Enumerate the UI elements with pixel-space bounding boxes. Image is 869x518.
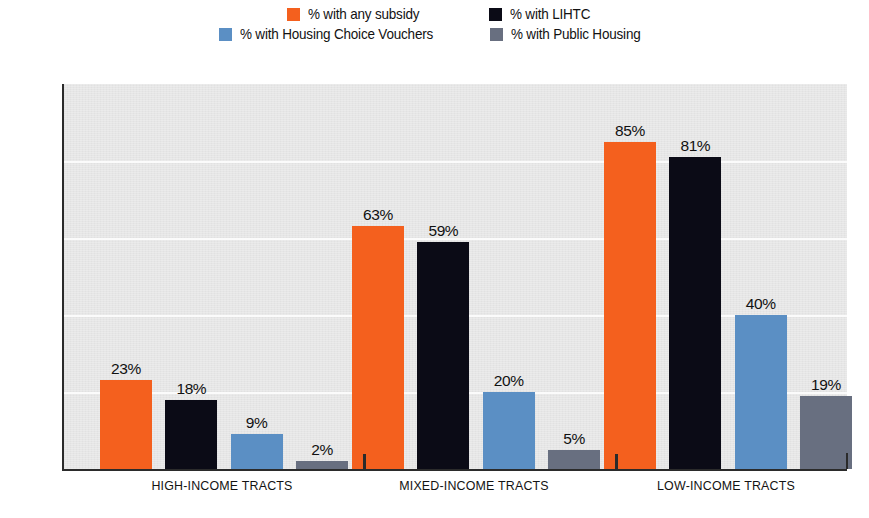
legend-item-lihtc[interactable]: % with LIHTC [489,6,596,22]
bar-value-label: 85% [615,122,645,140]
bar-groups: 23%18%9%2%63%59%20%5%85%81%40%19% [64,84,847,469]
legend-row-1: % with any subsidy % with LIHTC [273,6,597,22]
x-axis-category-label: LOW-INCOME TRACTS [612,478,840,493]
bar[interactable]: 81% [669,157,721,469]
bar[interactable]: 85% [604,142,656,469]
legend-item-public-housing[interactable]: % with Public Housing [490,26,650,42]
legend-swatch-public-housing [490,28,503,41]
bar[interactable]: 9% [231,434,283,469]
baseline-group-tick [363,454,366,469]
chart-legend: % with any subsidy % with LIHTC % with H… [0,6,869,42]
legend-row-2: % with Housing Choice Vouchers % with Pu… [219,26,650,42]
bar-value-label: 2% [311,441,333,459]
bar[interactable]: 18% [165,400,217,469]
legend-swatch-any-subsidy [287,8,300,21]
bar[interactable]: 63% [352,226,404,469]
bar[interactable]: 19% [800,396,852,469]
x-axis-category-label: MIXED-INCOME TRACTS [360,478,588,493]
bar[interactable]: 23% [100,380,152,469]
axis-right-end-tick [846,453,849,469]
bar-value-label: 19% [811,376,841,394]
bar-value-label: 81% [680,137,710,155]
bar[interactable]: 40% [735,315,787,469]
bar[interactable]: 2% [296,461,348,469]
legend-label-housing-choice-vouchers: % with Housing Choice Vouchers [240,26,433,42]
bar-value-label: 23% [111,360,141,378]
legend-swatch-lihtc [489,8,502,21]
legend-label-any-subsidy: % with any subsidy [308,6,419,22]
bar-value-label: 20% [494,372,524,390]
legend-item-housing-choice-vouchers[interactable]: % with Housing Choice Vouchers [219,26,448,42]
bar-group: 23%18%9%2% [100,84,348,469]
bar-value-label: 5% [563,430,585,448]
x-axis-category-label: HIGH-INCOME TRACTS [108,478,336,493]
bar-chart-plot-area: 100%80%60%40%20%0% 23%18%9%2%63%59%20%5%… [62,84,847,471]
x-axis-category-labels: HIGH-INCOME TRACTSMIXED-INCOME TRACTSLOW… [62,478,845,502]
bar-group: 63%59%20%5% [352,84,600,469]
bar[interactable]: 5% [548,450,600,469]
baseline-group-tick [615,454,618,469]
legend-item-any-subsidy[interactable]: % with any subsidy [287,6,428,22]
bar-value-label: 9% [246,414,268,432]
bar-group: 85%81%40%19% [604,84,852,469]
bar-value-label: 40% [746,295,776,313]
bar[interactable]: 20% [483,392,535,469]
bar[interactable]: 59% [417,242,469,469]
legend-swatch-housing-choice-vouchers [219,28,232,41]
legend-label-lihtc: % with LIHTC [510,6,590,22]
bar-value-label: 59% [428,222,458,240]
legend-label-public-housing: % with Public Housing [511,26,641,42]
bar-value-label: 63% [363,206,393,224]
bar-value-label: 18% [176,380,206,398]
